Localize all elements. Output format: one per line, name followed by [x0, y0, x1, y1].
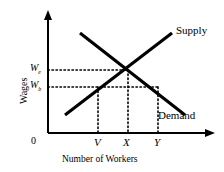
y-tick-label-we: We [30, 63, 41, 75]
origin-label: 0 [31, 136, 36, 146]
x-tick-label-x: X [123, 137, 130, 148]
supply-demand-diagram: Wages 0 We Wb V X Y Supply Demand Number… [0, 0, 224, 172]
y-tick-label-wb: Wb [30, 80, 41, 92]
curve-lines [65, 33, 185, 115]
demand-curve-label: Demand [158, 110, 195, 121]
demand-curve [80, 33, 185, 115]
y-axis-arrow [44, 10, 52, 20]
supply-curve [65, 33, 172, 115]
y-tick-wb-sub: b [38, 86, 41, 92]
y-tick-we-sub: e [38, 69, 41, 75]
x-tick-label-v: V [94, 137, 101, 148]
x-tick-label-y: Y [154, 137, 160, 148]
x-axis-arrow [205, 129, 215, 137]
x-axis-title: Number of Workers [62, 155, 138, 165]
y-axis-title: Wages [18, 78, 29, 104]
supply-curve-label: Supply [176, 25, 207, 36]
